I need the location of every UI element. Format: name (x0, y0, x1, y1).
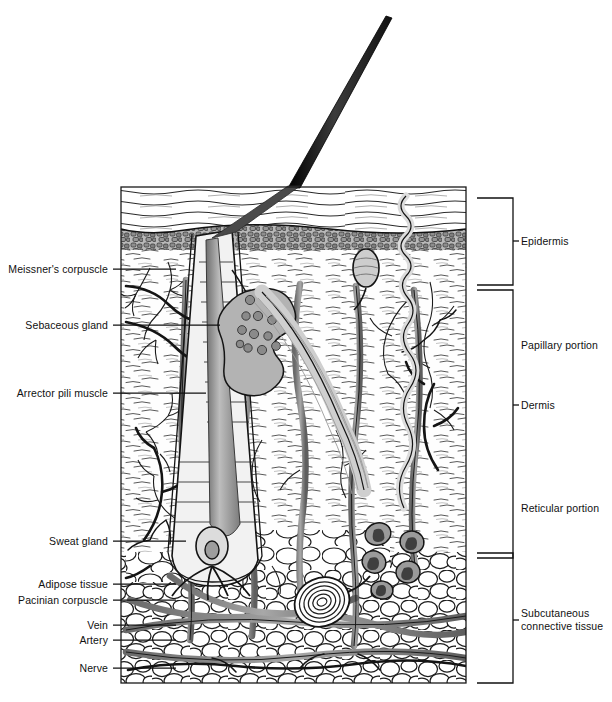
dermal-papilla (205, 541, 219, 559)
bracket-dermis (477, 290, 513, 558)
label-adipose-tissue: Adipose tissue (38, 578, 108, 590)
label-sweat-gland: Sweat gland (49, 535, 108, 547)
label-nerve: Nerve (79, 662, 108, 674)
label-arrector-pili-muscle: Arrector pili muscle (17, 387, 108, 399)
skin-illustration (121, 16, 466, 683)
label-subcutaneous-connective-tissue: Subcutaneous connective tissue (521, 607, 612, 633)
label-artery: Artery (79, 634, 108, 646)
label-pacinian-corpuscle: Pacinian corpuscle (18, 594, 108, 606)
label-papillary-portion: Papillary portion (521, 339, 598, 351)
label-reticular-portion: Reticular portion (521, 502, 599, 514)
label-dermis: Dermis (521, 399, 555, 411)
label-vein: Vein (87, 619, 108, 631)
bracket-subcutaneous-connective-tissue (477, 553, 513, 683)
label-epidermis: Epidermis (521, 235, 569, 247)
region-brackets (477, 198, 519, 683)
hair-shaft (288, 16, 392, 188)
label-meissners-corpuscle: Meissner's corpuscle (8, 263, 108, 275)
bracket-epidermis (477, 198, 513, 285)
label-sebaceous-gland: Sebaceous gland (25, 319, 108, 331)
skin-cross-section-figure: Meissner's corpuscleSebaceous glandArrec… (0, 0, 612, 702)
